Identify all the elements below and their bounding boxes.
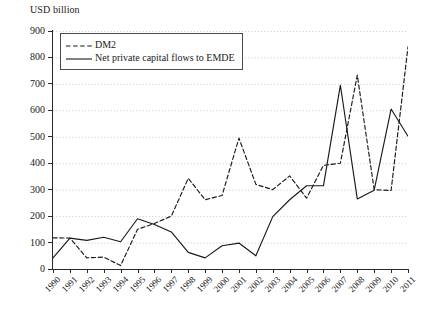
x-axis-tick-mark bbox=[121, 269, 122, 273]
solid-line-swatch-icon bbox=[66, 52, 92, 60]
x-axis-tick-label: 2002 bbox=[246, 275, 265, 294]
x-axis-tick-mark bbox=[307, 269, 308, 273]
y-axis-tick-label: 200 bbox=[30, 211, 48, 221]
data-series-line-0 bbox=[53, 47, 408, 266]
y-axis-tick-label: 100 bbox=[30, 237, 48, 247]
x-axis-tick-label: 1993 bbox=[94, 275, 113, 294]
x-axis-tick-mark bbox=[256, 269, 257, 273]
x-axis-tick-mark bbox=[290, 269, 291, 273]
x-axis-tick-label: 2009 bbox=[364, 275, 383, 294]
x-axis-tick-label: 2008 bbox=[348, 275, 367, 294]
y-axis-ticks: 0100200300400500600700800900 bbox=[0, 0, 52, 309]
legend-item-dm2: DM2 bbox=[66, 39, 235, 51]
x-axis-tick-mark bbox=[323, 269, 324, 273]
legend-label-net-private-capital-flows: Net private capital flows to EMDE bbox=[92, 52, 235, 64]
x-axis-tick-mark bbox=[53, 269, 54, 273]
x-axis-tick-label: 2004 bbox=[280, 275, 299, 294]
x-axis-tick-mark bbox=[171, 269, 172, 273]
x-axis-tick-label: 1999 bbox=[195, 275, 214, 294]
x-axis-ticks: 1990199119921993199419951996199719981999… bbox=[0, 269, 425, 309]
x-axis-tick-label: 1990 bbox=[43, 275, 62, 294]
data-series-line-1 bbox=[53, 85, 408, 258]
x-axis-tick-mark bbox=[374, 269, 375, 273]
x-axis-tick-mark bbox=[391, 269, 392, 273]
legend-label-dm2: DM2 bbox=[92, 39, 116, 51]
chart-legend: DM2 Net private capital flows to EMDE bbox=[60, 33, 243, 70]
chart-figure: USD billion 0100200300400500600700800900… bbox=[0, 0, 425, 309]
legend-item-net-private-capital-flows: Net private capital flows to EMDE bbox=[66, 52, 235, 64]
x-axis-tick-mark bbox=[340, 269, 341, 273]
x-axis-tick-mark bbox=[205, 269, 206, 273]
x-axis-tick-label: 2007 bbox=[331, 275, 350, 294]
x-axis-tick-label: 2011 bbox=[399, 275, 418, 294]
x-axis-tick-label: 1991 bbox=[60, 275, 79, 294]
x-axis-tick-mark bbox=[239, 269, 240, 273]
x-axis-tick-mark bbox=[154, 269, 155, 273]
y-axis-tick-label: 700 bbox=[30, 78, 48, 88]
y-axis-tick-label: 800 bbox=[30, 52, 48, 62]
x-axis-tick-label: 2006 bbox=[314, 275, 333, 294]
x-axis-tick-label: 1995 bbox=[128, 275, 147, 294]
x-axis-tick-label: 1997 bbox=[162, 275, 181, 294]
x-axis-tick-label: 2010 bbox=[381, 275, 400, 294]
x-axis-tick-mark bbox=[138, 269, 139, 273]
x-axis-tick-label: 1994 bbox=[111, 275, 130, 294]
y-axis-tick-label: 500 bbox=[30, 131, 48, 141]
x-axis-tick-label: 1992 bbox=[77, 275, 96, 294]
x-axis-tick-mark bbox=[188, 269, 189, 273]
y-axis-tick-label: 300 bbox=[30, 184, 48, 194]
y-axis-tick-label: 900 bbox=[30, 26, 48, 36]
x-axis-tick-mark bbox=[87, 269, 88, 273]
x-axis-tick-mark bbox=[70, 269, 71, 273]
x-axis-tick-label: 1998 bbox=[179, 275, 198, 294]
x-axis-tick-mark bbox=[222, 269, 223, 273]
x-axis-tick-label: 2000 bbox=[212, 275, 231, 294]
x-axis-tick-mark bbox=[104, 269, 105, 273]
x-axis-tick-label: 2003 bbox=[263, 275, 282, 294]
x-axis-tick-mark bbox=[273, 269, 274, 273]
x-axis-tick-label: 2001 bbox=[229, 275, 248, 294]
x-axis-tick-mark bbox=[408, 269, 409, 273]
dashed-line-swatch-icon bbox=[66, 39, 92, 47]
x-axis-tick-label: 1996 bbox=[145, 275, 164, 294]
y-axis-tick-label: 600 bbox=[30, 105, 48, 115]
y-axis-tick-label: 400 bbox=[30, 158, 48, 168]
x-axis-tick-mark bbox=[357, 269, 358, 273]
